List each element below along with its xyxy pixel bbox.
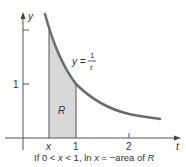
ln-area-diagram: y 1 x 1 2 t R y = 1 t [0,0,186,167]
curve-label-lhs: y = [71,56,86,67]
caption-mid: < 1, ln [63,152,94,163]
x-tick-label-2: 2 [126,141,132,152]
curve-label-denominator: t [90,63,93,72]
caption-prefix: If 0 < [34,152,58,163]
figure-caption: If 0 < x < 1, ln x = −area of R [34,152,154,163]
caption-suffix: = −area of [99,152,148,163]
y-axis-label: y [27,11,34,22]
x-axis-arrow-icon [174,136,181,141]
region-label: R [58,105,65,116]
x-tick-label-1: 1 [73,141,79,152]
y-tick-label-1: 1 [13,79,19,90]
x-axis-label: t [176,141,180,152]
y-axis-arrow-icon [21,12,26,19]
region-r [49,30,76,138]
x-tick-label-x: x [45,141,52,152]
caption-region: R [148,152,155,163]
curve-label-numerator: 1 [90,51,95,60]
